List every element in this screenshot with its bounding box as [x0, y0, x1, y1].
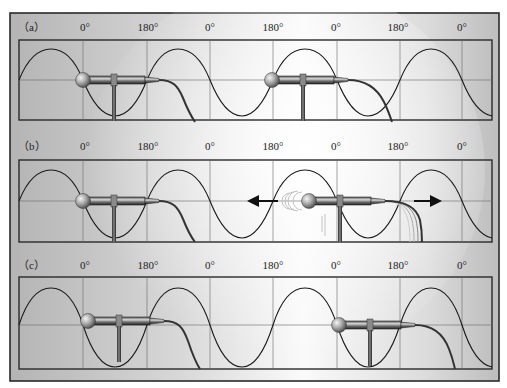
- svg-text:0°: 0°: [331, 21, 341, 33]
- svg-text:0°: 0°: [80, 140, 90, 152]
- svg-text:180°: 180°: [388, 140, 409, 152]
- svg-text:180°: 180°: [138, 259, 159, 271]
- svg-text:0°: 0°: [457, 21, 467, 33]
- svg-text:180°: 180°: [138, 21, 159, 33]
- svg-text:0°: 0°: [331, 140, 341, 152]
- svg-text:0°: 0°: [457, 140, 467, 152]
- svg-text:0°: 0°: [331, 259, 341, 271]
- svg-text:0°: 0°: [205, 21, 215, 33]
- svg-text:180°: 180°: [138, 140, 159, 152]
- panel-label-a: （a）: [18, 21, 45, 33]
- svg-text:0°: 0°: [205, 140, 215, 152]
- svg-text:0°: 0°: [205, 259, 215, 271]
- svg-text:180°: 180°: [388, 259, 409, 271]
- diagram-canvas: （a） 0° 180° 0° 180° 0° 180° 0°: [0, 0, 507, 388]
- svg-text:180°: 180°: [263, 259, 284, 271]
- svg-text:0°: 0°: [457, 259, 467, 271]
- panel-label-c: （c）: [18, 259, 45, 271]
- svg-text:0°: 0°: [80, 21, 90, 33]
- svg-text:180°: 180°: [263, 21, 284, 33]
- svg-text:180°: 180°: [263, 140, 284, 152]
- panel-label-b: （b）: [18, 140, 46, 152]
- svg-text:0°: 0°: [80, 259, 90, 271]
- svg-text:180°: 180°: [388, 21, 409, 33]
